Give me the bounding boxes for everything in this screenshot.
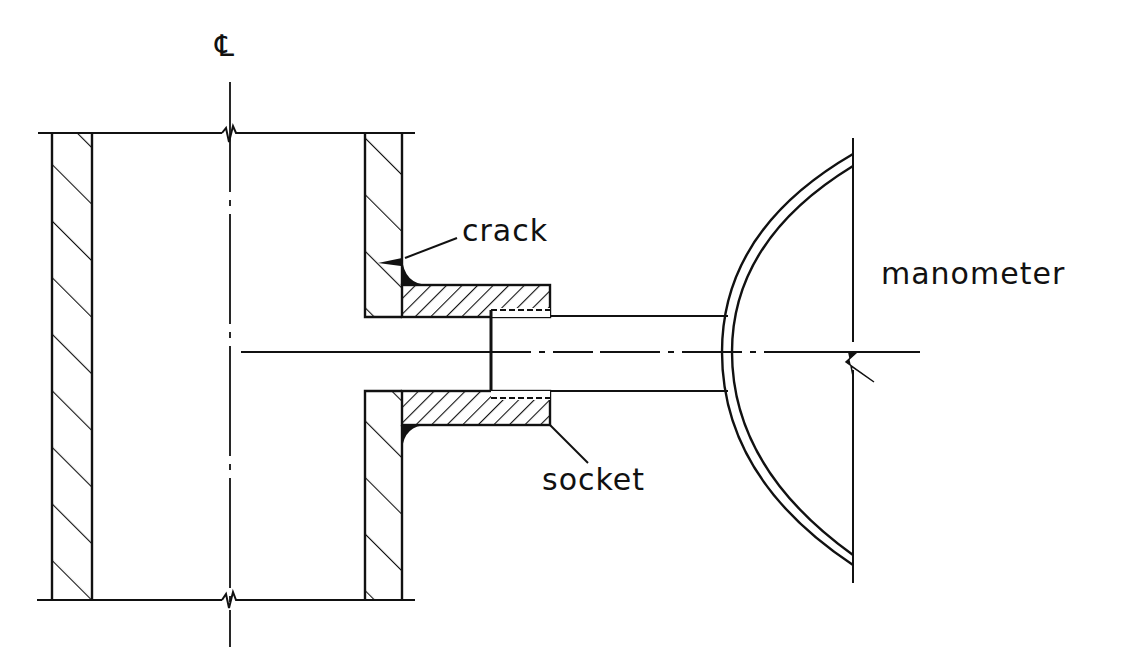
pipe-left-wall (52, 133, 92, 600)
socket-leader (550, 425, 588, 463)
socket-label: socket (542, 462, 645, 497)
pipe-socket-crack-diagram (0, 0, 1132, 670)
socket-lower (402, 391, 550, 425)
pipe-outline (37, 126, 415, 608)
crack-fillet-lower (402, 425, 428, 450)
manometer-break-mark (846, 352, 874, 382)
crack-label: crack (462, 213, 548, 248)
crack-leader (405, 238, 457, 258)
leader-lines (405, 238, 588, 463)
pipe-right-wall-upper (365, 133, 402, 317)
connecting-tube (491, 310, 728, 391)
manometer (722, 138, 853, 583)
pipe-right-wall-lower (365, 391, 402, 600)
socket-upper (402, 285, 550, 317)
centerline-symbol-label: ℄ (215, 28, 235, 63)
manometer-label: manometer (881, 256, 1065, 291)
